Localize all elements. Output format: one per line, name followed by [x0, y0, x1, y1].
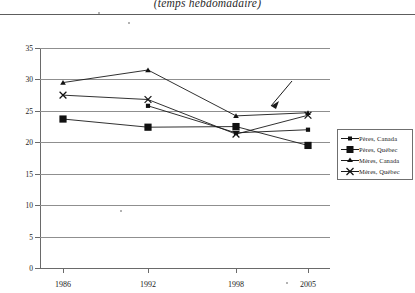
- legend-label: Mères, Canada: [359, 157, 399, 164]
- y-axis-label: 15: [26, 169, 34, 178]
- legend-item-meres-quebec[interactable]: Mères, Québec: [341, 166, 410, 177]
- legend-label: Pères, Canada: [359, 135, 397, 142]
- chart-page: (temps hebdomadaire) 05101520253035 1986…: [0, 0, 415, 293]
- x-tick: [148, 268, 149, 273]
- chart-legend: Pères, Canada Pères, Québec Mères, Canad…: [337, 129, 413, 180]
- x-axis-label: 1986: [55, 280, 71, 289]
- x-tick: [308, 268, 309, 273]
- y-axis-label: 5: [29, 232, 33, 241]
- y-axis-label: 20: [26, 138, 34, 147]
- x-tick: [236, 268, 237, 273]
- legend-item-peres-canada[interactable]: Pères, Canada: [341, 133, 410, 144]
- x-tick: [63, 268, 64, 273]
- scan-speck: [98, 12, 100, 14]
- y-axis-label: 35: [26, 44, 34, 53]
- legend-item-meres-canada[interactable]: Mères, Canada: [341, 155, 410, 166]
- y-axis-label: 30: [26, 75, 34, 84]
- legend-label: Pères, Québec: [359, 146, 397, 153]
- legend-label: Mères, Québec: [359, 168, 400, 175]
- header-divider: [0, 14, 415, 15]
- legend-marker-large-square-icon: [341, 144, 359, 155]
- y-axis-label: 25: [26, 106, 34, 115]
- x-axis-label: 1992: [140, 280, 156, 289]
- legend-marker-triangle-icon: [341, 155, 359, 166]
- y-axis-label: 10: [26, 201, 34, 210]
- x-axis-line: [40, 268, 330, 269]
- legend-marker-x-icon: [341, 166, 359, 177]
- plot-area: 05101520253035 1986199219982005: [40, 48, 330, 268]
- legend-marker-small-square-icon: [341, 133, 359, 144]
- y-axis-label: 0: [29, 264, 33, 273]
- annotation-arrow: [40, 48, 330, 268]
- y-tick: [35, 268, 40, 269]
- x-axis-label: 1998: [228, 280, 244, 289]
- x-axis-label: 2005: [300, 280, 316, 289]
- scan-speck: [120, 210, 122, 212]
- scan-speck: [128, 22, 130, 24]
- scan-speck: [286, 282, 288, 284]
- chart-title: (temps hebdomadaire): [0, 0, 415, 9]
- legend-item-peres-quebec[interactable]: Pères, Québec: [341, 144, 410, 155]
